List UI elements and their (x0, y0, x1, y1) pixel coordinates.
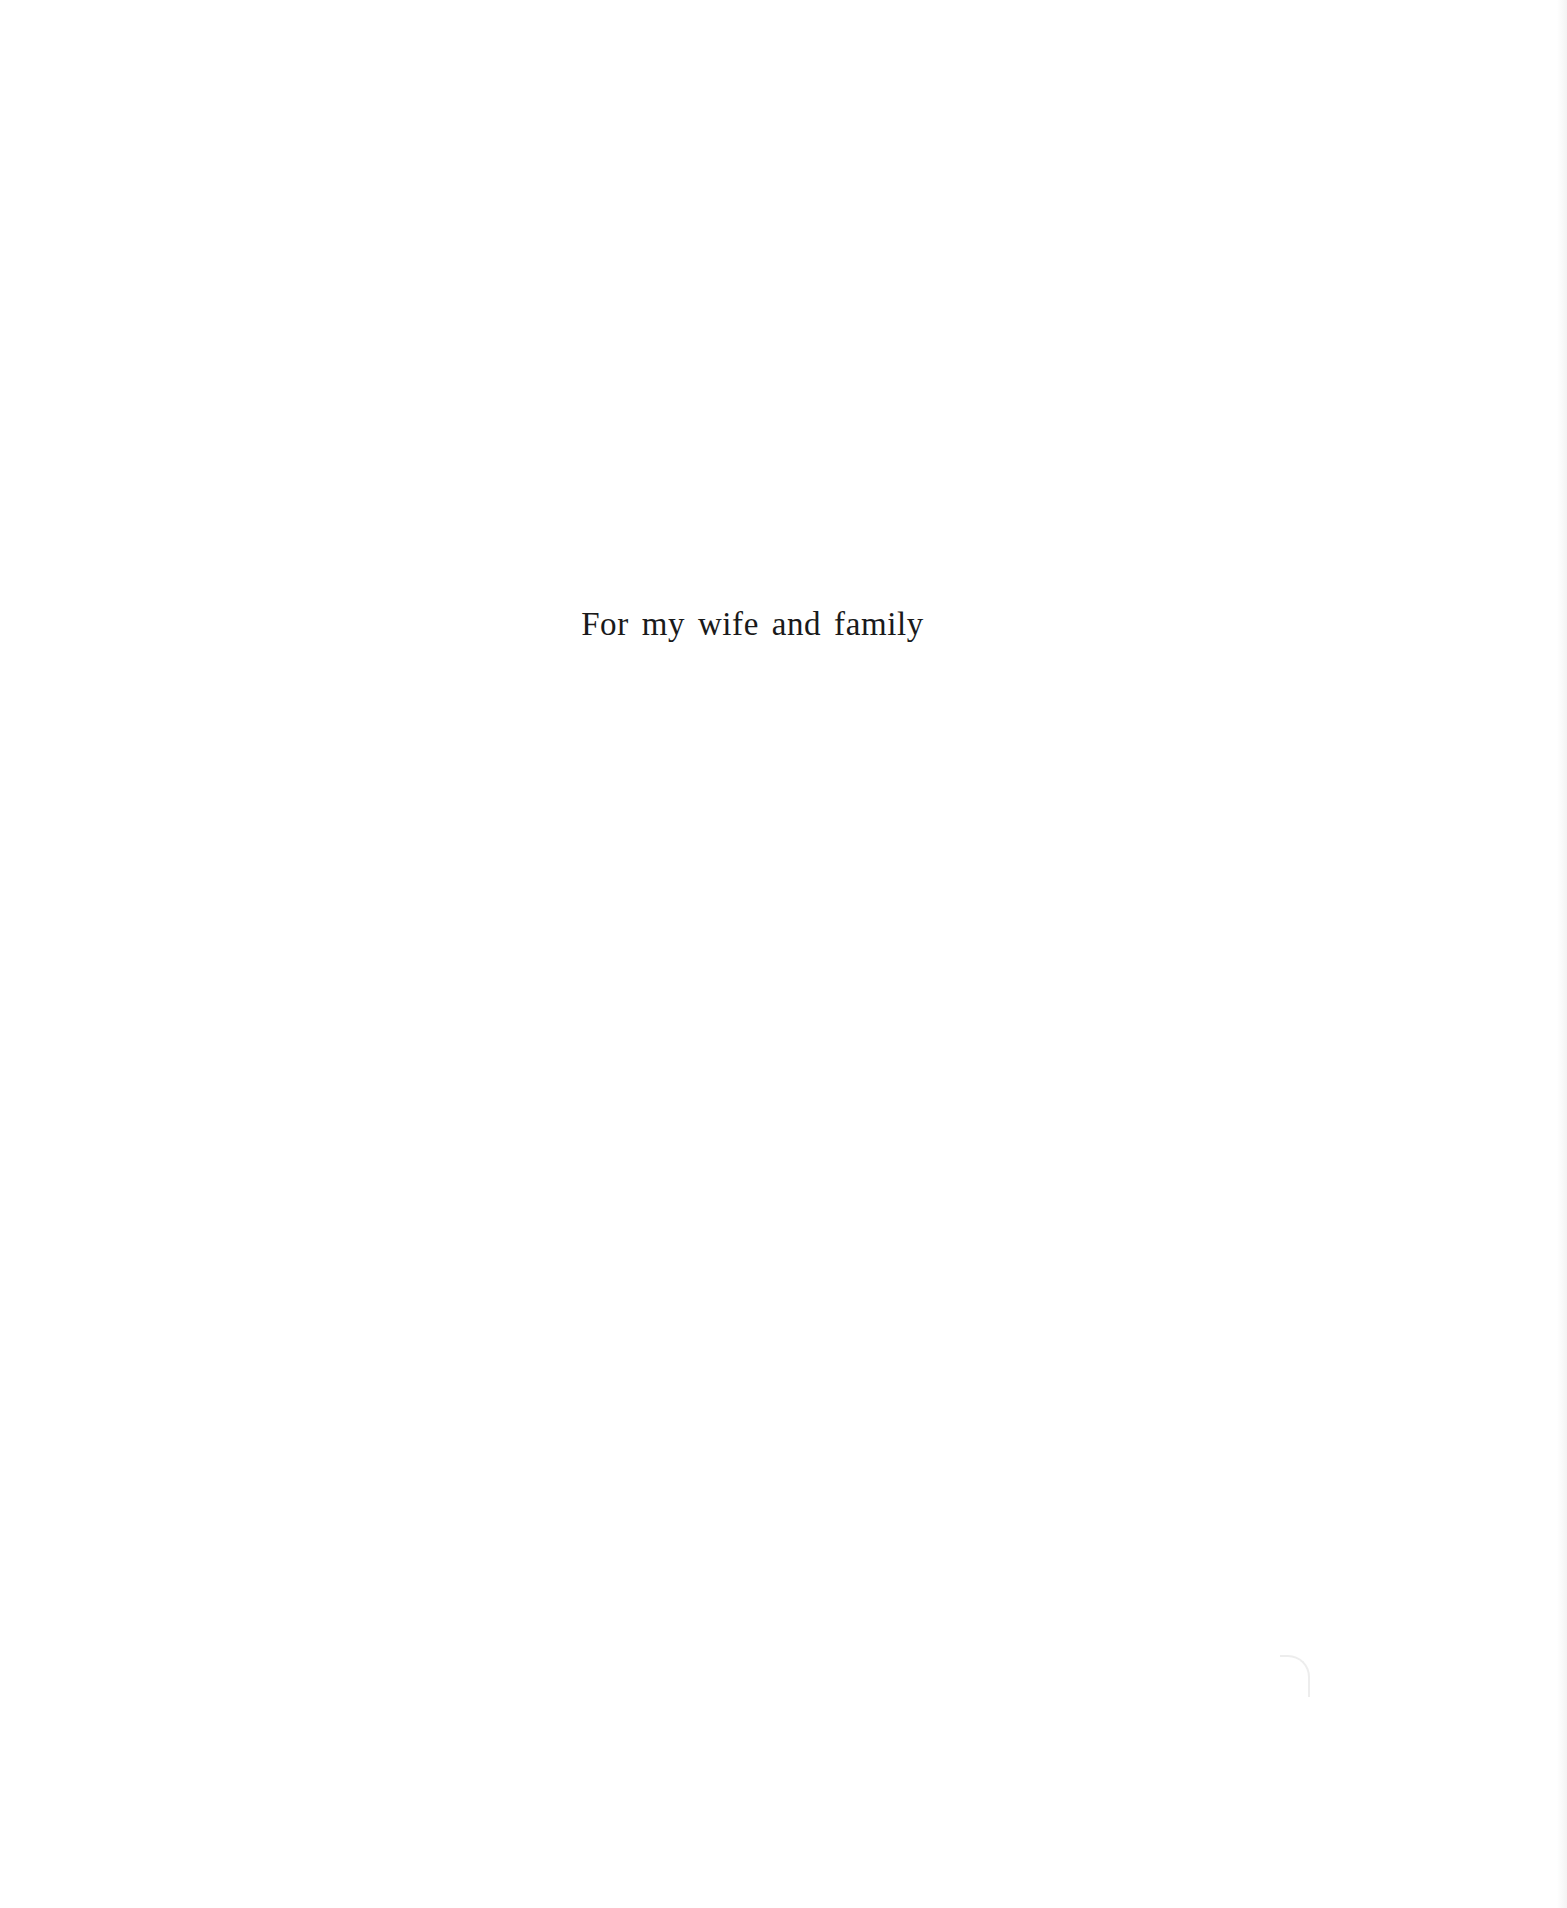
scan-artifact (1280, 1655, 1310, 1697)
book-page: For my wife and family (0, 0, 1567, 1908)
dedication-text: For my wife and family (0, 604, 1505, 644)
page-edge-shadow (1557, 0, 1567, 1908)
